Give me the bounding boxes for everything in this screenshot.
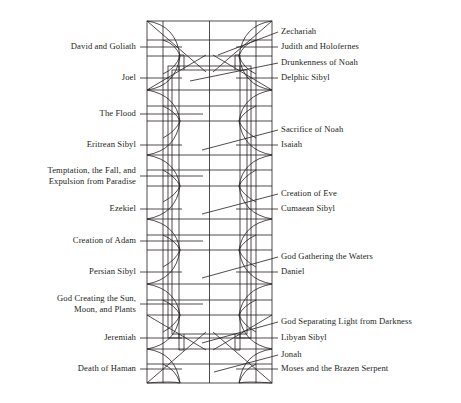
label-god-creating-sun-moon-plants: God Creating the Sun, Moon, and Plants [57, 293, 136, 314]
label-creation-of-eve: Creation of Eve [281, 188, 337, 199]
left-leader-lines [140, 47, 203, 369]
label-ezekiel: Ezekiel [110, 203, 136, 214]
label-eritrean-sibyl: Eritrean Sibyl [87, 139, 136, 150]
label-drunkenness-of-noah: Drunkenness of Noah [281, 57, 358, 68]
label-libyan-sibyl: Libyan Sibyl [281, 332, 327, 343]
label-temptation-fall-expulsion: Temptation, the Fall, and Expulsion from… [47, 165, 136, 186]
label-sacrifice-of-noah: Sacrifice of Noah [281, 124, 343, 135]
ceiling-plan-svg [0, 0, 461, 403]
label-the-flood: The Flood [100, 108, 136, 119]
label-death-of-haman: Death of Haman [78, 363, 136, 374]
label-god-gathering-the-waters: God Gathering the Waters [281, 251, 373, 262]
label-zechariah: Zechariah [281, 26, 316, 37]
right-leader-lines [190, 32, 278, 372]
right-spandrel-arcs [239, 21, 272, 383]
label-david-and-goliath: David and Goliath [71, 41, 136, 52]
label-isaiah: Isaiah [281, 139, 302, 150]
label-jeremiah: Jeremiah [104, 332, 136, 343]
label-persian-sibyl: Persian Sibyl [89, 266, 136, 277]
label-moses-and-the-brazen-serpent: Moses and the Brazen Serpent [281, 363, 388, 374]
label-creation-of-adam: Creation of Adam [73, 235, 136, 246]
label-daniel: Daniel [281, 266, 305, 277]
label-god-separating-light-from-darkness: God Separating Light from Darkness [281, 316, 412, 327]
left-spandrel-arcs [147, 21, 180, 383]
sistine-ceiling-plan-diagram: David and Goliath Joel The Flood Eritrea… [0, 0, 461, 403]
label-delphic-sibyl: Delphic Sibyl [281, 72, 330, 83]
label-judith-and-holofernes: Judith and Holofernes [281, 41, 359, 52]
label-jonah: Jonah [281, 349, 302, 360]
label-cumaean-sibyl: Cumaean Sibyl [281, 203, 335, 214]
label-joel: Joel [122, 72, 136, 83]
